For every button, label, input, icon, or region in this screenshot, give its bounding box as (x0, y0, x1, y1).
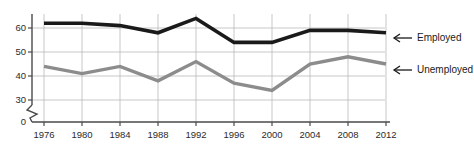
x-tick-label-2004: 2004 (299, 129, 320, 140)
y-tick-label-40: 40 (15, 70, 26, 81)
line-chart: 60 50 40 30 0 1976 1980 1984 1988 1992 (0, 0, 474, 151)
x-tick-label-1976: 1976 (33, 129, 54, 140)
y-tick-label-0: 0 (21, 116, 26, 127)
legend-label-unemployed: Unemployed (417, 64, 473, 75)
x-tick-label-2000: 2000 (261, 129, 282, 140)
x-tick-label-2012: 2012 (375, 129, 396, 140)
x-tick-label-1988: 1988 (147, 129, 168, 140)
x-tick-label-2008: 2008 (337, 129, 358, 140)
y-tick-label-30: 30 (15, 94, 26, 105)
chart-canvas: 60 50 40 30 0 1976 1980 1984 1988 1992 (0, 0, 474, 151)
x-tick-label-1992: 1992 (185, 129, 206, 140)
legend-label-employed: Employed (417, 32, 461, 43)
x-tick-label-1980: 1980 (71, 129, 92, 140)
x-tick-label-1996: 1996 (223, 129, 244, 140)
y-tick-label-60: 60 (15, 22, 26, 33)
y-tick-label-50: 50 (15, 46, 26, 57)
x-tick-label-1984: 1984 (109, 129, 130, 140)
